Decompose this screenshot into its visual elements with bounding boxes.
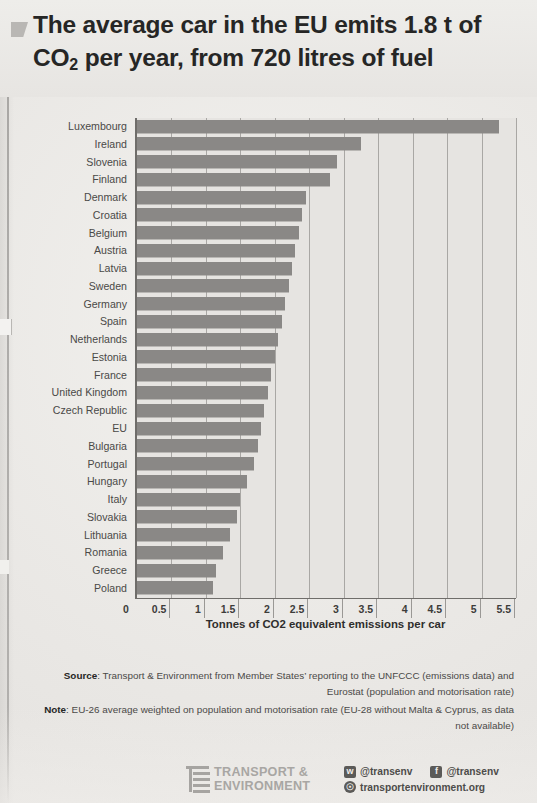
bar-row <box>137 278 516 296</box>
method-note: Note: EU-26 average weighted on populati… <box>44 702 514 734</box>
category-label: Ireland <box>11 136 131 154</box>
bar-row <box>137 402 516 420</box>
value-axis-tick-label: 1.5 <box>221 603 239 615</box>
value-axis-tick-mark <box>204 599 205 618</box>
bar <box>137 564 216 577</box>
bar-row <box>137 189 516 207</box>
note-label: Note <box>44 704 66 715</box>
value-axis-tick-mark <box>514 599 515 618</box>
value-axis-title: Tonnes of CO2 equivalent emissions per c… <box>135 618 516 630</box>
source-label: Source <box>64 670 97 681</box>
category-label: Italy <box>11 491 131 509</box>
category-label: Sweden <box>11 278 131 296</box>
social-row-website: ☉ transportenvironment.org <box>344 780 534 796</box>
logo-wordmark: TRANSPORT & ENVIRONMENT <box>214 765 310 793</box>
bar <box>137 404 264 417</box>
value-axis-tick-mark <box>169 599 170 618</box>
category-label: Germany <box>11 296 131 314</box>
category-label: Latvia <box>11 260 131 278</box>
title-line-2-prefix: CO <box>33 44 69 71</box>
bar <box>137 439 258 452</box>
twitter-icon: w <box>344 766 356 778</box>
value-axis-tick-label: 0.5 <box>152 603 170 615</box>
value-axis-tick-label: 3 <box>333 603 342 615</box>
value-axis-tick-mark <box>445 599 446 618</box>
gridline <box>516 118 517 598</box>
bar-row <box>137 527 516 545</box>
value-axis-tick-label: 3.5 <box>359 603 377 615</box>
bar <box>137 120 499 133</box>
bar <box>137 457 254 470</box>
bar-row <box>137 491 516 509</box>
value-axis-tick-label: 2.5 <box>290 603 308 615</box>
transport-environment-logo: TRANSPORT & ENVIRONMENT <box>186 762 336 796</box>
social-row-handles: w @transenv f @transenv <box>344 764 534 780</box>
category-label: Croatia <box>11 207 131 225</box>
bar <box>137 581 213 594</box>
bar-row <box>137 260 516 278</box>
logo-line-2: ENVIRONMENT <box>214 779 310 793</box>
title-line-2-suffix: per year, from 720 litres of fuel <box>78 44 433 71</box>
bar-row <box>137 580 516 598</box>
title-subscript: 2 <box>69 56 78 73</box>
category-label: Netherlands <box>11 331 131 349</box>
category-label: Czech Republic <box>11 402 131 420</box>
bar <box>137 155 337 168</box>
value-axis-tick-mark <box>342 599 343 618</box>
category-label: Hungary <box>11 473 131 491</box>
logo-mark-icon <box>186 765 209 793</box>
bar-row <box>137 349 516 367</box>
bar-row <box>137 420 516 438</box>
value-axis-tick-label: 4.5 <box>427 603 445 615</box>
website-link[interactable]: transportenvironment.org <box>360 780 485 796</box>
value-axis-tick-zero: 0 <box>123 603 129 615</box>
page-title: The average car in the EU emits 1.8 t of… <box>33 8 528 77</box>
bar-row <box>137 207 516 225</box>
facebook-handle[interactable]: @transenv <box>446 764 498 780</box>
bar-row <box>137 242 516 260</box>
bar-row <box>137 473 516 491</box>
bar-row <box>137 384 516 402</box>
bar-row <box>137 438 516 456</box>
bar-row <box>137 544 516 562</box>
facebook-icon: f <box>430 766 442 778</box>
category-label: Finland <box>11 171 131 189</box>
bar <box>137 297 285 310</box>
bar-row <box>137 367 516 385</box>
bar-row <box>137 296 516 314</box>
category-label: Greece <box>11 562 131 580</box>
footer: TRANSPORT & ENVIRONMENT w @transenv f @t… <box>0 758 537 803</box>
logo-line-1: TRANSPORT & <box>214 765 310 779</box>
bar <box>137 226 299 239</box>
value-axis-tick-label: 1 <box>195 603 204 615</box>
bar <box>137 191 306 204</box>
category-label: Slovakia <box>11 509 131 527</box>
bullet-marker-icon <box>11 22 28 37</box>
bar <box>137 262 292 275</box>
page-edge-line <box>7 0 9 803</box>
bar-row <box>137 171 516 189</box>
bar <box>137 510 237 523</box>
chart-panel: LuxembourgIrelandSloveniaFinlandDenmarkC… <box>11 100 530 645</box>
bar-row <box>137 562 516 580</box>
twitter-handle[interactable]: @transenv <box>360 764 412 780</box>
title-line-1: The average car in the EU emits 1.8 t of <box>33 11 481 38</box>
bar-row <box>137 225 516 243</box>
value-axis-tick-mark <box>411 599 412 618</box>
value-axis-tick-mark <box>376 599 377 618</box>
value-axis-tick-mark <box>238 599 239 618</box>
category-label: Poland <box>11 580 131 598</box>
category-label: Slovenia <box>11 154 131 172</box>
bar <box>137 493 240 506</box>
bar <box>137 173 330 186</box>
bar <box>137 137 361 150</box>
category-axis-labels: LuxembourgIrelandSloveniaFinlandDenmarkC… <box>11 118 131 598</box>
bar-row <box>137 154 516 172</box>
globe-icon: ☉ <box>344 781 356 793</box>
value-axis-tick-label: 5.5 <box>496 603 514 615</box>
note-text: : EU-26 average weighted on population a… <box>66 704 514 731</box>
category-label: Romania <box>11 544 131 562</box>
bar <box>137 368 271 381</box>
category-label: EU <box>11 420 131 438</box>
social-links: w @transenv f @transenv ☉ transportenvir… <box>344 764 534 795</box>
